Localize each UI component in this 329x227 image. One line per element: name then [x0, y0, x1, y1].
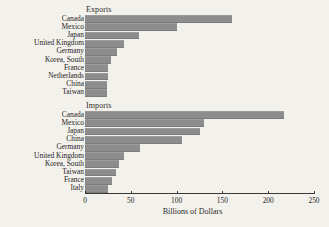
bar-row: Korea, South — [0, 159, 329, 167]
x-axis-tick — [85, 191, 86, 194]
bar-category-label: Taiwan — [62, 87, 84, 96]
bar — [85, 89, 107, 97]
x-axis-tick — [314, 191, 315, 194]
bar-row: United Kingdom — [0, 39, 329, 47]
bar-row: Korea, South — [0, 55, 329, 63]
bar-row: Netherlands — [0, 71, 329, 79]
imports-panel: CanadaMexicoJapanChinaGermanyUnited King… — [0, 110, 329, 194]
bar-row: Mexico — [0, 22, 329, 30]
x-axis-tick-label: 150 — [217, 196, 228, 205]
x-axis-tick-label: 200 — [263, 196, 274, 205]
x-axis-tick — [268, 191, 269, 194]
trade-bar-chart: Exports CanadaMexicoJapanUnited KingdomG… — [0, 0, 329, 227]
bar-row: Italy — [0, 184, 329, 192]
bar — [85, 185, 108, 193]
x-axis-tick-label: 50 — [127, 196, 134, 205]
bar-row: Taiwan — [0, 88, 329, 96]
bar-row: China — [0, 80, 329, 88]
exports-panel: CanadaMexicoJapanUnited KingdomGermanyKo… — [0, 14, 329, 98]
x-axis-tick-label: 250 — [308, 196, 319, 205]
x-axis-title-label: Billions of Dollars — [163, 207, 223, 216]
x-axis-line — [85, 193, 314, 194]
bar-row: Taiwan — [0, 167, 329, 175]
bar-category-label: Italy — [70, 183, 84, 192]
bar-row: Canada — [0, 14, 329, 22]
bar-row: Canada — [0, 110, 329, 118]
bar-row: China — [0, 135, 329, 143]
x-axis: 050100150200250 Billions of Dollars — [0, 193, 329, 227]
bar-row: France — [0, 176, 329, 184]
x-axis-tick — [177, 191, 178, 194]
exports-panel-title: Exports — [86, 5, 112, 14]
imports-panel-title: Imports — [86, 101, 112, 110]
x-axis-tick-label: 100 — [171, 196, 182, 205]
bar-row: Japan — [0, 126, 329, 134]
x-axis-tick — [222, 191, 223, 194]
x-axis-tick — [131, 191, 132, 194]
bar-row: Mexico — [0, 118, 329, 126]
x-axis-title: Billions of Dollars — [0, 207, 329, 216]
x-axis-tick-label: 0 — [83, 196, 87, 205]
